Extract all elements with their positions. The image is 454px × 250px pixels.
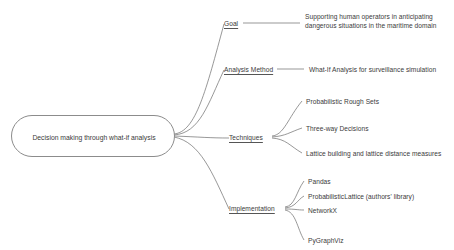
root-node[interactable]: Decision making through what-if analysis <box>11 115 175 157</box>
branch-label-analysis-method[interactable]: Analysis Method <box>224 65 273 74</box>
leaf-implementation-networkx: NetworkX <box>308 206 337 215</box>
edge-techniques-to-leaf-1 <box>272 101 302 136</box>
edge-root-to-techniques <box>174 136 229 138</box>
branch-label-goal[interactable]: Goal <box>224 19 238 28</box>
edge-root-to-goal <box>174 24 224 134</box>
leaf-technique-three-way-decisions: Three-way Decisions <box>306 124 369 133</box>
edge-implementation-to-leaf-1 <box>285 181 304 207</box>
mind-map-diagram: Decision making through what-if analysis… <box>0 0 454 250</box>
edge-techniques-to-leaf-3 <box>272 138 302 153</box>
leaf-technique-probabilistic-rough-sets: Probabilistic Rough Sets <box>306 97 379 106</box>
branch-label-implementation[interactable]: Implementation <box>229 204 275 213</box>
leaf-implementation-probabilisticlattice: ProbabilisticLattice (authors' library) <box>308 192 414 201</box>
edge-techniques-to-leaf-2 <box>272 128 302 137</box>
leaf-implementation-pandas: Pandas <box>308 177 331 186</box>
branch-label-techniques[interactable]: Techniques <box>229 133 263 142</box>
leaf-analysis-method-item: What-If Analysis for surveillance simula… <box>309 65 436 74</box>
edge-root-to-implementation <box>174 137 229 209</box>
edge-implementation-to-leaf-3 <box>285 209 304 210</box>
leaf-technique-lattice-building: Lattice building and lattice distance me… <box>306 149 441 158</box>
edge-root-to-analysis-method <box>174 70 224 135</box>
edge-implementation-to-leaf-4 <box>285 210 304 240</box>
root-node-label: Decision making through what-if analysis <box>12 116 176 158</box>
leaf-implementation-pygraphviz: PyGraphViz <box>308 236 344 245</box>
leaf-goal-statement: Supporting human operators in anticipati… <box>305 12 454 30</box>
